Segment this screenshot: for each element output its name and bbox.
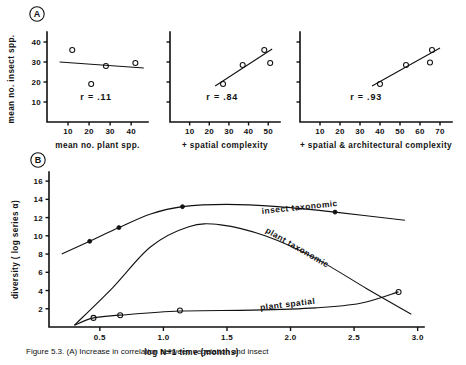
figure-caption-wrap: Figure 5.3. (A) Increase in correlation … [26, 347, 446, 356]
panel-a-plot-2-axes [300, 32, 452, 122]
panel-b-y-axis-label: diversity ( log series α) [11, 200, 20, 299]
panel-a-plot-1-xtick-label-40: 40 [244, 127, 254, 136]
panel-a-plot-0-point-3 [133, 61, 138, 66]
panel-a-plot-1-xtick-label-10: 10 [185, 127, 195, 136]
panel-a-plot-1-axes [170, 32, 280, 122]
panel-b-xtick-label-0.5: 0.5 [94, 333, 106, 342]
panel-a-plot-0-xtick-label-10: 10 [63, 127, 73, 136]
panel-a-label: A [34, 9, 41, 19]
panel-a-plot-0-point-1 [89, 82, 94, 87]
figure-container: Amean no. insect spp.1020304010203040r =… [0, 0, 466, 365]
panel-a-plot-0-xtick-label-20: 20 [84, 127, 94, 136]
panel-b-series-0-label: insect taxonomic [261, 198, 338, 216]
panel-a-plot-1-point-1 [240, 63, 245, 68]
panel-a-plot-1-xtick-label-30: 30 [224, 127, 234, 136]
panel-b-series-0-point-0 [88, 239, 92, 243]
panel-b-xtick-label-2.5: 2.5 [348, 333, 360, 342]
panel-a-plot-0-fit-line [60, 62, 144, 68]
panel-a-plot-0-point-2 [103, 64, 108, 69]
panel-a-plot-0-xtick-label-40: 40 [126, 127, 136, 136]
panel-a-plot-1-r-value: r = .84 [206, 92, 238, 102]
panel-a-plot-2-r-value: r = .93 [350, 92, 382, 102]
panel-a-ytick-label-40: 40 [32, 38, 42, 47]
panel-b-ytick-label-8: 8 [38, 250, 43, 259]
panel-a-plot-2-point-0 [378, 82, 383, 87]
panel-a-plot-2-point-3 [430, 48, 435, 53]
panel-b-series-2-curve [74, 292, 398, 325]
figure-caption: Figure 5.3. (A) Increase in correlation … [26, 347, 446, 356]
panel-b-xtick-label-1.5: 1.5 [221, 333, 233, 342]
panel-a-plot-2-point-2 [428, 60, 433, 65]
panel-a-plot-1-point-3 [268, 61, 273, 66]
panel-a-plot-1-xtick-label-50: 50 [263, 127, 273, 136]
panel-b-ytick-label-12: 12 [34, 214, 44, 223]
panel-a-plot-1-point-2 [262, 48, 267, 53]
panel-a-ytick-label-20: 20 [32, 78, 42, 87]
panel-b-series-0-curve [62, 204, 405, 254]
panel-b-xtick-label-1.0: 1.0 [157, 333, 169, 342]
panel-a-plot-0-point-0 [70, 48, 75, 53]
panel-a-ytick-label-10: 10 [32, 98, 42, 107]
panel-a-plot-1-x-axis-label: + spatial complexity [182, 141, 268, 150]
panel-a-plot-2-xtick-label-70: 70 [435, 127, 445, 136]
panel-b-xtick-label-3.0: 3.0 [412, 333, 424, 342]
panel-a-plot-0-r-value: r = .11 [80, 92, 111, 102]
panel-b-label: B [35, 155, 42, 165]
panel-a-plot-2-xtick-label-60: 60 [415, 127, 425, 136]
panel-a-plot-2-xtick-label-40: 40 [375, 127, 385, 136]
panel-b-series-2-label: plant spatial [260, 296, 316, 313]
panel-b-ytick-label-16: 16 [34, 177, 44, 186]
panel-a-plot-2-xtick-label-20: 20 [335, 127, 345, 136]
panel-a-y-axis-label: mean no. insect spp. [7, 35, 16, 124]
panel-b-axes [49, 172, 424, 327]
panel-a-plot-1-xtick-label-20: 20 [205, 127, 215, 136]
panel-b-xtick-label-2.0: 2.0 [285, 333, 297, 342]
panel-a-plot-2-xtick-label-50: 50 [395, 127, 405, 136]
panel-b-series-0-point-2 [180, 205, 184, 209]
panel-b-series-0-point-1 [117, 226, 121, 230]
panel-a-plot-2-x-axis-label: + spatial & architectural complexity [300, 141, 452, 150]
panel-b-ytick-label-14: 14 [34, 195, 44, 204]
panel-a-plot-2-xtick-label-10: 10 [315, 127, 325, 136]
panel-b-ytick-label-10: 10 [34, 232, 44, 241]
panel-a-plot-1-point-0 [221, 82, 226, 87]
panel-b-ytick-label-6: 6 [38, 268, 43, 277]
panel-a-ytick-label-30: 30 [32, 58, 42, 67]
panel-a-plot-0-xtick-label-30: 30 [105, 127, 115, 136]
panel-b-series-1-label: plant taxonomic [264, 225, 331, 270]
panel-b-ytick-label-4: 4 [38, 287, 43, 296]
figure-svg: Amean no. insect spp.1020304010203040r =… [0, 0, 466, 365]
panel-a-plot-0-axes [47, 32, 148, 122]
panel-b-ytick-label-2: 2 [38, 305, 43, 314]
panel-a-plot-0-x-axis-label: mean no. plant spp. [55, 141, 139, 150]
panel-b-series-0-point-3 [333, 210, 337, 214]
panel-a-plot-2-xtick-label-30: 30 [355, 127, 365, 136]
